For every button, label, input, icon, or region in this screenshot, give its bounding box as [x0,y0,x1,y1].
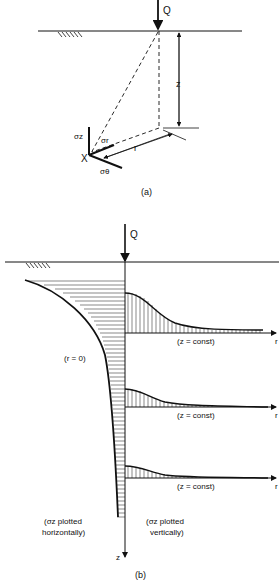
profile-2-curve [125,389,268,407]
zconst-label-1: (z = const) [177,337,215,346]
stress-theta-label: σθ [100,167,110,176]
radius-label: r [134,143,137,153]
ground-hatch-icon [58,32,82,37]
boussinesq-diagram: Q z r σz σr σθ X (a) Q [0,0,279,587]
profile-1-curve [125,293,263,330]
depth-label: z [176,79,181,89]
load-label-b: Q [130,229,138,240]
left-note-line1: (σz plotted [44,517,82,526]
point-label: X [81,153,88,164]
r-label-3: r [275,482,278,491]
zconst-label-3: (z = const) [177,482,215,491]
figure-b: Q z [5,224,279,580]
zconst-label-2: (z = const) [177,411,215,420]
r0-label: (r = 0) [64,354,86,363]
caption-b: (b) [135,570,146,580]
left-note-line2: horizontally) [42,528,85,537]
figure-a: Q z r σz σr σθ X (a) [38,0,242,197]
r-label-1: r [275,337,278,346]
right-note-line1: (σz plotted [146,517,184,526]
stress-z-label: σz [74,132,83,141]
load-label-a: Q [163,5,171,16]
caption-a: (a) [141,187,152,197]
r0-curve [25,280,118,517]
profile-3-curve [125,466,268,478]
r-label-2: r [275,411,278,420]
stress-r-label: σr [101,136,109,145]
right-note-line2: vertically) [150,528,184,537]
ground-hatch-icon [26,263,50,268]
z-axis-label: z [116,553,120,562]
